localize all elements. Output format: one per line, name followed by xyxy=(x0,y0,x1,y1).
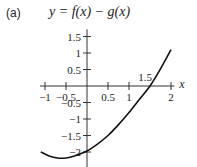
x-tick-label: 1 xyxy=(126,91,132,103)
y-tick-label: 1.5 xyxy=(67,31,81,43)
chart-plot xyxy=(0,0,197,167)
y-tick-label: −1.5 xyxy=(61,130,81,142)
y-tick-label: −0.5 xyxy=(61,97,81,109)
x-tick-label: 2 xyxy=(168,91,174,103)
x-axis-label: x xyxy=(179,78,184,90)
x-tick-label: −1 xyxy=(39,91,51,103)
y-tick-label: 1 xyxy=(76,47,82,59)
annotation-label: 1.5 xyxy=(138,71,152,83)
x-tick-label: 0.5 xyxy=(101,91,115,103)
y-tick-label: −2 xyxy=(69,146,81,158)
y-tick-label: 0.5 xyxy=(67,64,81,76)
y-tick-label: −1 xyxy=(69,113,81,125)
